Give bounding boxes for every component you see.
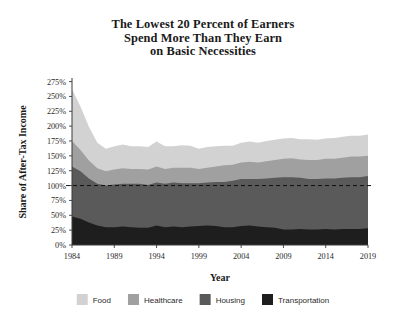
legend-swatch-healthcare xyxy=(128,294,139,305)
x-tick-label: 1984 xyxy=(64,252,80,261)
x-tick-label: 2009 xyxy=(275,252,291,261)
x-tick-label: 2019 xyxy=(360,252,376,261)
y-tick-label: 75% xyxy=(51,196,66,205)
x-tick-label: 1994 xyxy=(148,252,164,261)
y-tick-label: 250% xyxy=(47,92,66,101)
legend-label-healthcare: Healthcare xyxy=(144,296,183,305)
x-tick-label: 1999 xyxy=(191,252,207,261)
y-axis-ticks: 0%25%50%75%100%125%150%175%200%225%250%2… xyxy=(47,78,72,250)
legend-label-food: Food xyxy=(93,296,111,305)
stacked-areas xyxy=(72,89,368,245)
chart-title: The Lowest 20 Percent of Earners Spend M… xyxy=(0,18,406,59)
x-tick-label: 2004 xyxy=(233,252,249,261)
chart-title-line-1: The Lowest 20 Percent of Earners xyxy=(0,18,406,32)
y-axis-label: Share of After-Tax Income xyxy=(17,105,28,219)
y-tick-label: 125% xyxy=(47,167,66,176)
legend-label-housing: Housing xyxy=(216,296,245,305)
y-tick-label: 200% xyxy=(47,122,66,131)
y-tick-label: 25% xyxy=(51,226,66,235)
y-tick-label: 275% xyxy=(47,78,66,87)
chart-figure: The Lowest 20 Percent of Earners Spend M… xyxy=(0,0,406,330)
chart-legend: FoodHealthcareHousingTransportation xyxy=(77,294,330,305)
y-tick-label: 50% xyxy=(51,211,66,220)
legend-swatch-food xyxy=(77,294,88,305)
y-tick-label: 100% xyxy=(47,182,66,191)
x-axis-ticks: 19841989199419992004200920142019 xyxy=(64,245,376,261)
legend-label-transportation: Transportation xyxy=(278,296,329,305)
x-axis-label: Year xyxy=(210,272,231,283)
chart-title-line-2: Spend More Than They Earn xyxy=(0,32,406,46)
y-tick-label: 0% xyxy=(55,241,66,250)
legend-swatch-transportation xyxy=(262,294,273,305)
y-tick-label: 150% xyxy=(47,152,66,161)
chart-title-line-3: on Basic Necessities xyxy=(0,45,406,59)
y-tick-label: 175% xyxy=(47,137,66,146)
legend-swatch-housing xyxy=(200,294,211,305)
x-tick-label: 1989 xyxy=(106,252,122,261)
y-tick-label: 225% xyxy=(47,107,66,116)
x-tick-label: 2014 xyxy=(318,252,334,261)
